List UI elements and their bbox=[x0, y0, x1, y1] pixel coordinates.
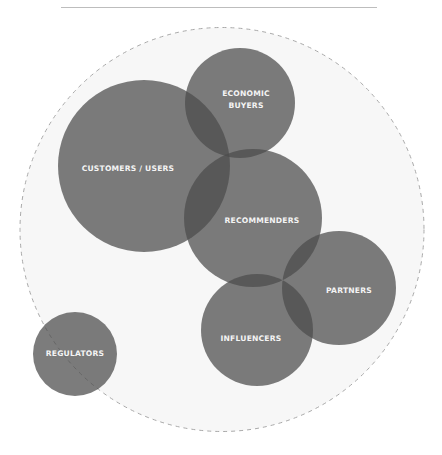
label-customers: CUSTOMERS / USERS bbox=[82, 164, 175, 173]
label-regulators: REGULATORS bbox=[46, 349, 105, 358]
label-influencers: INFLUENCERS bbox=[221, 334, 282, 343]
stakeholder-diagram: CUSTOMERS / USERS ECONOMIC BUYERS RECOMM… bbox=[0, 0, 442, 455]
label-partners: PARTNERS bbox=[326, 286, 372, 295]
label-economic-buyers-line1: ECONOMIC bbox=[222, 89, 270, 98]
label-economic-buyers-line2: BUYERS bbox=[228, 101, 263, 110]
node-influencers bbox=[201, 274, 313, 386]
label-recommenders: RECOMMENDERS bbox=[225, 216, 300, 225]
